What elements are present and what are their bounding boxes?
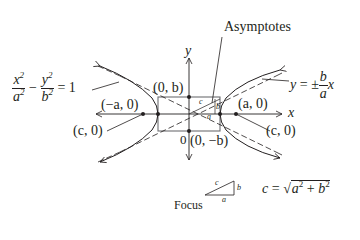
origin-label: 0	[180, 133, 187, 146]
right-vertex-label: (a, 0)	[238, 97, 268, 111]
left-focus-leader	[107, 114, 143, 131]
top-vertex-label: (0, b)	[153, 81, 183, 95]
focus-formula: c = √a2 + b2	[262, 182, 330, 196]
focus-tri-vert-label: b	[237, 184, 241, 192]
focus-tri-base-label: a	[222, 196, 226, 204]
focus-tri-hyp-label: c	[215, 179, 219, 187]
bottom-vertex-label: (0, −b)	[190, 134, 228, 148]
point-right-vertex	[218, 112, 222, 116]
asymptote-equation: y = ±bax	[290, 70, 334, 101]
focus-triangle	[205, 181, 234, 195]
y-axis-label: y	[185, 44, 191, 58]
point-left-vertex	[156, 112, 160, 116]
focus-label: Focus	[174, 199, 203, 211]
left-vertex-label: (−a, 0)	[101, 98, 138, 112]
right-focus-leader	[236, 114, 270, 131]
box-base-label: a	[207, 113, 211, 121]
asymptotes-leader	[212, 37, 222, 103]
left-focus-label: (c, 0)	[73, 124, 103, 138]
x-axis-label: x	[288, 106, 294, 120]
right-focus-label: (c, 0)	[266, 124, 296, 138]
asymptotes-label: Asymptotes	[224, 20, 291, 34]
hyperbola-equation: x2a2 − y2b2 = 1	[12, 73, 76, 104]
point-top-vertex	[187, 95, 191, 99]
box-hyp-label: c	[199, 98, 203, 106]
equation-leader	[92, 82, 119, 90]
box-vert-label: b	[216, 103, 220, 111]
